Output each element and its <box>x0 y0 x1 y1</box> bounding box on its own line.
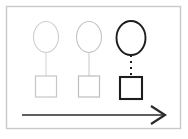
node-group-1 <box>34 22 59 98</box>
progression-arrow <box>22 106 165 124</box>
square-2 <box>79 76 100 97</box>
diagram-svg <box>0 0 188 139</box>
ellipse-1 <box>34 22 59 53</box>
node-group-3 <box>117 21 146 99</box>
diagram-canvas <box>0 0 188 139</box>
node-group-2 <box>77 22 102 98</box>
ellipse-2 <box>77 22 102 53</box>
square-1 <box>36 76 57 97</box>
square-3 <box>120 77 142 99</box>
ellipse-3 <box>117 21 146 55</box>
